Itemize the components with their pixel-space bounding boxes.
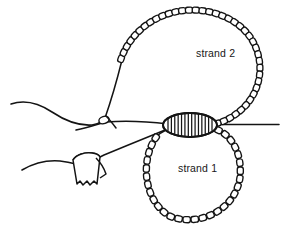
bead [191,216,199,223]
bead [144,180,152,189]
bead [236,159,243,167]
bead [237,167,243,174]
bead [183,216,191,222]
tag-body [73,153,100,185]
bead [145,148,153,157]
bead [143,173,150,181]
bead [143,165,149,173]
beading-diagram-figure: strand 2 strand 1 [0,0,282,230]
bead [144,156,151,164]
strand2-label: strand 2 [196,47,235,59]
diagram-canvas: strand 2 strand 1 [0,0,282,230]
strand1-label: strand 1 [178,162,217,174]
crimp-bead [163,113,217,137]
bead [236,175,243,183]
bead [174,215,182,222]
